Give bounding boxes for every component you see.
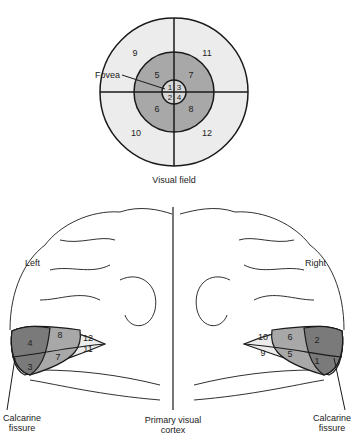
right-fissure-line2: fissure (310, 423, 354, 433)
svg-text:9: 9 (260, 348, 265, 358)
center-label-line2: cortex (133, 425, 213, 435)
primary-visual-cortex-label: Primary visual cortex (133, 415, 213, 435)
svg-text:7: 7 (188, 70, 193, 80)
center-label-line1: Primary visual (133, 415, 213, 425)
left-fissure-line1: Calcarine (0, 413, 44, 423)
svg-text:6: 6 (287, 332, 292, 342)
svg-text:2: 2 (314, 335, 319, 345)
right-calcarine-fissure-label: Calcarine fissure (310, 413, 354, 433)
svg-text:3: 3 (177, 83, 182, 92)
svg-text:5: 5 (287, 349, 292, 359)
svg-text:4: 4 (27, 338, 32, 348)
svg-text:8: 8 (188, 104, 193, 114)
svg-text:9: 9 (132, 48, 137, 58)
svg-text:10: 10 (131, 128, 141, 138)
svg-text:5: 5 (154, 70, 159, 80)
svg-text:11: 11 (202, 48, 211, 58)
svg-text:10: 10 (258, 332, 268, 342)
diagram-canvas: 13 24 57 68 911 1012 43 87 1211 (0, 0, 354, 441)
svg-text:1: 1 (168, 83, 173, 92)
svg-text:7: 7 (55, 352, 60, 362)
left-fissure-line2: fissure (0, 423, 44, 433)
svg-text:2: 2 (168, 93, 173, 102)
left-label: Left (25, 258, 40, 268)
right-fissure-line1: Calcarine (310, 413, 354, 423)
svg-text:6: 6 (154, 104, 159, 114)
svg-text:4: 4 (177, 93, 182, 102)
right-label: Right (305, 258, 326, 268)
svg-text:1: 1 (314, 356, 319, 366)
svg-text:3: 3 (27, 362, 32, 372)
fovea-label: Fovea (95, 70, 120, 80)
visual-field-diagram (100, 18, 248, 166)
left-calcarine-fissure-label: Calcarine fissure (0, 413, 44, 433)
svg-text:12: 12 (202, 128, 212, 138)
svg-text:12: 12 (83, 333, 93, 343)
svg-text:8: 8 (57, 330, 62, 340)
svg-text:11: 11 (83, 344, 92, 354)
visual-field-title: Visual field (144, 175, 204, 185)
